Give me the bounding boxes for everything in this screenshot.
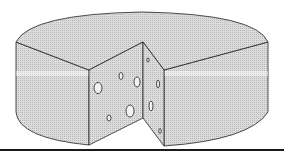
ground-line xyxy=(0,149,284,151)
